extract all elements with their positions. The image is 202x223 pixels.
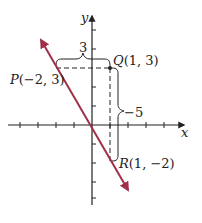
- rise-label: −5: [124, 105, 143, 120]
- coordinate-diagram: x y 3 −5 P(−2, 3) Q(1, 3) R(1,: [0, 0, 202, 223]
- point-r-label: R(1, −2): [118, 156, 175, 171]
- point-p-label: P(−2, 3): [9, 72, 65, 87]
- point-q-label: Q(1, 3): [113, 53, 159, 68]
- rise-brace: −5: [112, 68, 143, 161]
- run-label: 3: [79, 40, 87, 55]
- y-axis-label: y: [80, 10, 89, 25]
- run-brace: 3: [56, 40, 110, 66]
- x-axis-label: x: [181, 125, 189, 140]
- point-q-marker: [108, 66, 112, 70]
